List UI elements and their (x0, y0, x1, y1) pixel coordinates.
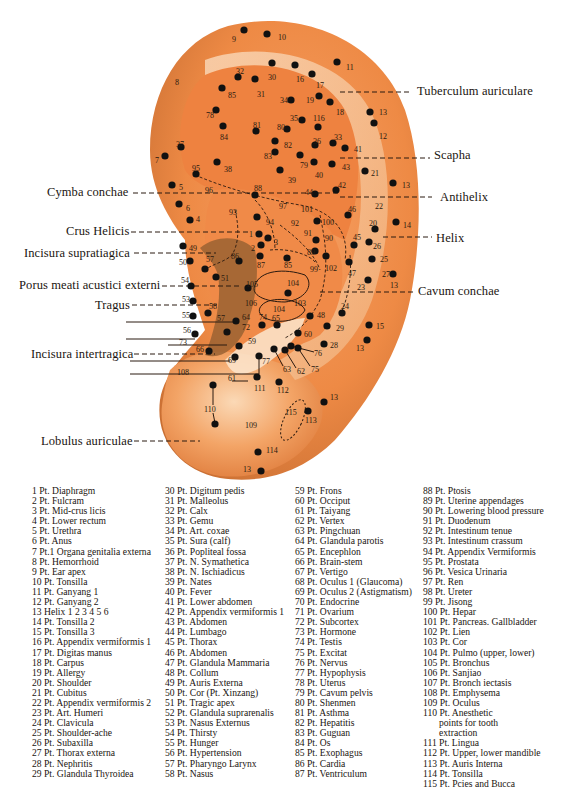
point-number: 15 (376, 322, 384, 331)
point-number: 63 (283, 365, 291, 374)
legend-item: 103 Pt. Cor (423, 637, 544, 647)
point-number: 61 (228, 374, 236, 383)
point-number: 72 (242, 323, 250, 332)
point-marker (370, 119, 377, 126)
point-number: 59 (248, 337, 256, 346)
point-number: 18 (336, 108, 344, 117)
point-number: 8 (175, 78, 179, 87)
point-number: 14 (403, 221, 411, 230)
point-number: 97 (279, 202, 287, 211)
legend-item: 87 Pt. Ventriculum (295, 769, 412, 779)
point-marker (179, 242, 186, 249)
point-number: 108 (177, 368, 189, 377)
point-number: 2 (251, 244, 255, 253)
label-cymba-conchae: Cymba conchae (47, 185, 128, 200)
point-marker (361, 167, 368, 174)
point-number: 9 (232, 35, 236, 44)
point-marker (306, 312, 313, 319)
point-number: 39 (288, 176, 296, 185)
point-number: 66 (196, 345, 204, 354)
point-marker (291, 61, 298, 68)
point-number: 44 (305, 188, 313, 197)
point-marker (294, 329, 301, 336)
point-number: 16 (296, 75, 304, 84)
point-marker (341, 144, 348, 151)
point-marker (271, 137, 278, 144)
point-number: 103 (294, 299, 306, 308)
point-number: 19 (306, 96, 314, 105)
point-number: 74 (259, 313, 267, 322)
point-marker (284, 289, 291, 296)
point-number: 106 (245, 299, 257, 308)
legend-column-2: 30 Pt. Digitum pedis31 Pt. Malleolus32 P… (165, 486, 284, 779)
point-number: 76 (314, 349, 322, 358)
legend-item: 29 Pt. Glandula Thyroidea (32, 769, 151, 779)
point-marker (275, 378, 282, 385)
point-number: 116 (313, 114, 325, 123)
point-number: 17 (316, 81, 324, 90)
ear-illustration: 9108113032161731853419187813116351281808… (0, 0, 578, 480)
label-incisura-supratragica: Incisura supratiagica (24, 246, 130, 261)
point-marker (211, 420, 218, 427)
point-marker (389, 270, 396, 277)
point-number: 20 (369, 219, 377, 228)
point-number: 96 (205, 186, 213, 195)
point-number: 91 (304, 229, 312, 238)
point-number: 45 (353, 233, 361, 242)
point-number: 34 (280, 96, 288, 105)
point-marker (218, 84, 225, 91)
point-number: 81 (253, 121, 261, 130)
point-number: 56 (183, 326, 191, 335)
point-number: 113 (305, 416, 317, 425)
point-number: 104 (273, 305, 285, 314)
point-marker (314, 123, 321, 130)
point-number: 99 (310, 265, 318, 274)
point-marker (268, 59, 275, 66)
label-helix: Helix (436, 231, 464, 246)
legend-column-4: 88 Pt. Ptosis89 Pt. Uterine appendages90… (423, 486, 544, 789)
legend-item: 45 Pt. Thorax (165, 637, 284, 647)
point-number: 77 (262, 357, 270, 366)
label-incisura-intertragica: Incisura intertragica (31, 347, 133, 362)
point-marker (256, 252, 263, 259)
point-number: 100 (322, 218, 334, 227)
point-number: 115 (285, 408, 297, 417)
point-number: 57 (217, 314, 225, 323)
point-marker (264, 234, 271, 241)
point-number: 78 (206, 111, 214, 120)
point-number: 60 (304, 330, 312, 339)
point-marker (186, 216, 193, 223)
point-marker (263, 30, 270, 37)
point-number: 5 (179, 183, 183, 192)
point-number: 102 (325, 264, 337, 273)
point-marker (223, 328, 230, 335)
point-marker (350, 241, 357, 248)
point-marker (271, 148, 278, 155)
point-number: 13 (390, 281, 398, 290)
point-marker (201, 265, 208, 272)
point-number: 109 (245, 421, 257, 430)
point-marker (253, 373, 260, 380)
point-marker (365, 238, 372, 245)
point-marker (326, 98, 333, 105)
legend-column-3: 59 Pt. Frons60 Pt. Occiput61 Pt. Taiyang… (295, 486, 412, 779)
point-number: 41 (354, 145, 362, 154)
point-marker (298, 116, 305, 123)
point-number: 13 (330, 393, 338, 402)
point-marker (365, 321, 372, 328)
point-number: 13 (243, 465, 251, 474)
point-number: 75 (311, 365, 319, 374)
point-marker (322, 252, 329, 259)
point-marker (205, 347, 212, 354)
point-marker (287, 342, 294, 349)
point-marker (186, 257, 193, 264)
label-cavum-conchae: Cavum conchae (418, 284, 499, 299)
point-number: 46 (348, 205, 356, 214)
label-porus-meati: Porus meati acustici externi (19, 278, 160, 293)
point-marker (253, 213, 260, 220)
point-number: 13 (402, 181, 410, 190)
label-antihelix: Antihelix (440, 190, 488, 205)
point-number: 83 (264, 152, 272, 161)
point-marker (333, 58, 340, 65)
label-crus-helicis: Crus Helicis (66, 224, 129, 239)
